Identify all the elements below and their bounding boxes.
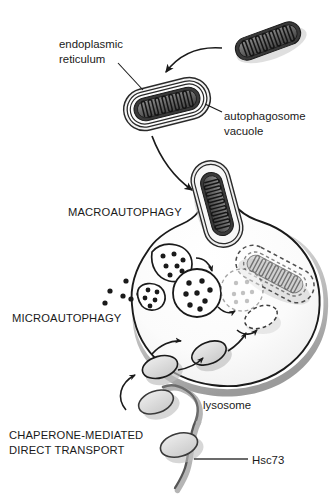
arrow-sequestration bbox=[166, 48, 222, 72]
label-endoplasmic-reticulum-line2: reticulum bbox=[59, 53, 105, 65]
cma-substrate-protein-upper bbox=[135, 386, 183, 425]
label-hsc73: Hsc73 bbox=[252, 454, 284, 466]
label-cma-line2: DIRECT TRANSPORT bbox=[9, 444, 125, 456]
autophagy-pathways-figure: endoplasmic reticulum autophagosome vacu… bbox=[0, 0, 333, 494]
label-macroautophagy: MACROAUTOPHAGY bbox=[68, 206, 182, 218]
diagram-canvas: endoplasmic reticulum autophagosome vacu… bbox=[0, 0, 333, 494]
label-autophagosome-line2: vacuole bbox=[224, 125, 263, 137]
vesicle-degrading-icon bbox=[221, 269, 263, 311]
arrow-cma-docking bbox=[120, 375, 135, 410]
label-cma-line1: CHAPERONE-MEDIATED bbox=[9, 429, 143, 441]
label-endoplasmic-reticulum-line1: endoplasmic bbox=[59, 38, 123, 50]
microautophagy-invagination-left bbox=[138, 284, 166, 311]
label-lysosome: lysosome bbox=[203, 399, 251, 411]
label-autophagosome-line1: autophagosome bbox=[224, 110, 306, 122]
mitochondrion-free-icon bbox=[231, 17, 311, 71]
arrow-to-lysosome bbox=[152, 136, 192, 190]
leader-line-endoplasmic-reticulum bbox=[118, 63, 143, 90]
cma-substrate-protein-lower bbox=[158, 429, 207, 468]
internalized-vesicle bbox=[173, 269, 221, 317]
autophagosome-vacuole-icon bbox=[119, 73, 215, 135]
label-microautophagy: MICROAUTOPHAGY bbox=[12, 312, 122, 324]
